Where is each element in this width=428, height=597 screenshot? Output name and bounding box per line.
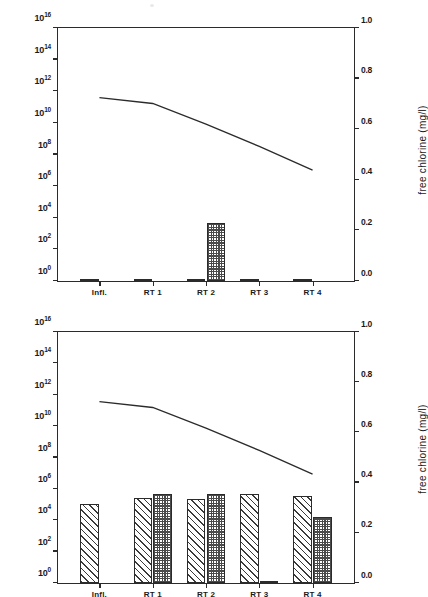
y2tick-bottom-3 bbox=[354, 431, 359, 432]
y2label-bottom-3: 0.6 bbox=[361, 420, 372, 429]
bar-bottom-rt1-hatch bbox=[134, 498, 152, 583]
y2label-top-2: 0.4 bbox=[361, 167, 372, 176]
y2tick-bottom-0 bbox=[354, 582, 359, 583]
ylabel-bottom-8: 108 bbox=[38, 441, 51, 452]
ylabel-bottom-14: 1014 bbox=[35, 347, 51, 358]
y2tick-top-4 bbox=[354, 77, 359, 78]
y2tick-top-2 bbox=[354, 179, 359, 180]
xlabel-bottom-rt3: RT 3 bbox=[250, 590, 268, 597]
bar-bottom-rt3-hatch bbox=[240, 494, 258, 583]
ylabel-bottom-2: 102 bbox=[38, 535, 51, 546]
y2tick-bottom-1 bbox=[354, 532, 359, 533]
xlabel-top-rt4: RT 4 bbox=[303, 288, 321, 297]
ylabel-top-14: 1014 bbox=[35, 43, 51, 54]
xtick-top-2 bbox=[206, 281, 207, 286]
bar-top-rt4-hatch bbox=[293, 279, 311, 281]
scan-artifact bbox=[150, 4, 154, 7]
y2tick-bottom-4 bbox=[354, 381, 359, 382]
bar-top-infl-hatch bbox=[80, 279, 98, 281]
ylabel-bottom-0: 100 bbox=[38, 567, 51, 578]
xtick-top-0 bbox=[99, 281, 100, 286]
plot-area-top: 100 102 104 106 108 1010 1012 1014 1016 … bbox=[57, 27, 355, 282]
ylabel-bottom-16: 1016 bbox=[35, 316, 51, 327]
y2label-top-4: 0.8 bbox=[361, 66, 372, 75]
y2label-bottom-4: 0.8 bbox=[361, 369, 372, 378]
xtick-bottom-1 bbox=[153, 583, 154, 588]
ylabel-bottom-6: 106 bbox=[38, 472, 51, 483]
ylabel-bottom-12: 1012 bbox=[35, 378, 51, 389]
y2label-bottom-2: 0.4 bbox=[361, 470, 372, 479]
ylabel-top-12: 1012 bbox=[35, 75, 51, 86]
xlabel-top-rt1: RT 1 bbox=[144, 288, 162, 297]
xtick-top-3 bbox=[259, 281, 260, 286]
y2tick-bottom-2 bbox=[354, 481, 359, 482]
ylabel-top-10: 1010 bbox=[35, 106, 51, 117]
y2tick-top-3 bbox=[354, 128, 359, 129]
ylabel-top-2: 102 bbox=[38, 233, 51, 244]
bar-bottom-rt3-check bbox=[260, 581, 278, 583]
chart-panel-top: number of viable cells in reactor free c… bbox=[0, 0, 421, 300]
ylabel-top-4: 104 bbox=[38, 201, 51, 212]
y2tick-bottom-5 bbox=[354, 331, 359, 332]
xlabel-bottom-infl: Infl. bbox=[92, 590, 107, 597]
bar-bottom-rt4-check bbox=[313, 517, 331, 583]
xlabel-bottom-rt1: RT 1 bbox=[144, 590, 162, 597]
ylabel-bottom-4: 104 bbox=[38, 504, 51, 515]
bar-bottom-infl-hatch bbox=[80, 504, 98, 583]
y2tick-top-5 bbox=[354, 27, 359, 28]
chart-panel-bottom: number of viable cells in reactor free c… bbox=[0, 300, 421, 597]
y2tick-top-0 bbox=[354, 280, 359, 281]
xtick-bottom-4 bbox=[313, 583, 314, 588]
y2tick-top-1 bbox=[354, 229, 359, 230]
xtick-bottom-2 bbox=[206, 583, 207, 588]
bar-top-rt2-check bbox=[207, 223, 225, 281]
xtick-top-1 bbox=[153, 281, 154, 286]
y2label-top-5: 1.0 bbox=[361, 15, 372, 24]
xlabel-top-rt3: RT 3 bbox=[250, 288, 268, 297]
plot-inner-bottom bbox=[58, 332, 354, 583]
ylabel-top-6: 106 bbox=[38, 170, 51, 181]
xtick-bottom-3 bbox=[259, 583, 260, 588]
y2label-top-0: 0.0 bbox=[361, 268, 372, 277]
y2label-bottom-0: 0.0 bbox=[361, 570, 372, 579]
xlabel-top-rt2: RT 2 bbox=[197, 288, 215, 297]
xtick-top-4 bbox=[313, 281, 314, 286]
ylabel-top-0: 100 bbox=[38, 265, 51, 276]
ylabel-top-8: 108 bbox=[38, 138, 51, 149]
right-axis-title-top: free chlorine (mg/l) bbox=[417, 105, 428, 194]
bar-top-rt3-hatch bbox=[240, 279, 258, 281]
bar-bottom-rt4-hatch bbox=[293, 496, 311, 583]
bar-top-rt1-hatch bbox=[134, 279, 152, 281]
bar-bottom-rt1-check bbox=[153, 494, 171, 583]
ylabel-top-16: 1016 bbox=[35, 12, 51, 23]
y2label-top-3: 0.6 bbox=[361, 116, 372, 125]
y2label-top-1: 0.2 bbox=[361, 218, 372, 227]
right-axis-title-bottom: free chlorine (mg/l) bbox=[417, 404, 428, 493]
bar-top-rt2-hatch bbox=[187, 279, 205, 281]
xlabel-bottom-rt4: RT 4 bbox=[303, 590, 321, 597]
xtick-bottom-0 bbox=[99, 583, 100, 588]
y2label-bottom-5: 1.0 bbox=[361, 319, 372, 328]
xlabel-top-infl: Infl. bbox=[92, 288, 107, 297]
bar-bottom-rt2-check bbox=[207, 494, 225, 583]
plot-inner-top bbox=[58, 28, 354, 281]
plot-area-bottom: 100 102 104 106 108 1010 1012 1014 1016 … bbox=[57, 331, 355, 584]
ylabel-bottom-10: 1010 bbox=[35, 410, 51, 421]
bar-bottom-rt2-hatch bbox=[187, 499, 205, 583]
xlabel-bottom-rt2: RT 2 bbox=[197, 590, 215, 597]
y2label-bottom-1: 0.2 bbox=[361, 520, 372, 529]
